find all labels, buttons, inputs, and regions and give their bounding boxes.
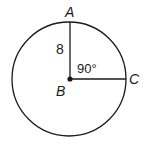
angle-label: 90° <box>77 61 97 76</box>
point-label-a: A <box>64 4 74 20</box>
circle-diagram: A C B 8 90° <box>0 0 148 147</box>
point-label-c: C <box>129 71 140 87</box>
point-label-b: B <box>56 83 65 99</box>
center-dot <box>67 76 72 81</box>
radius-length-label: 8 <box>56 41 64 57</box>
